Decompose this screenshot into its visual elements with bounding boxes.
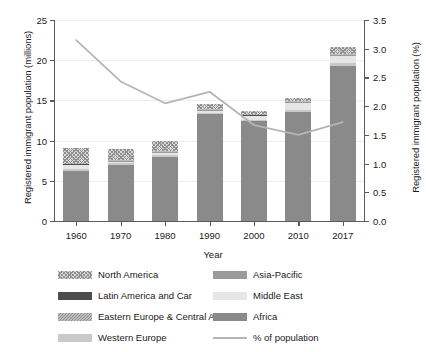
legend-item-africa[interactable]: Africa [213,311,388,322]
y-axis-right-tick-label: 3.0 [373,43,401,54]
y-axis-right-tick [365,221,369,222]
bar-segment-asia-pacific [285,102,311,103]
legend-label: Asia-Pacific [253,269,303,280]
x-axis-tick [210,222,211,226]
bar-segment-western-europe [152,155,178,157]
legend-label: % of population [253,332,319,343]
y-axis-right-tick [365,135,369,136]
bar-1980[interactable] [152,141,178,221]
legend-color-swatch [213,313,247,321]
bar-segment-asia-pacific [330,55,356,56]
legend-color-swatch [58,292,92,300]
y-axis-right-tick-label: 1.0 [373,158,401,169]
y-axis-right-tick [365,106,369,107]
legend-label: Latin America and Car [98,290,192,301]
y-axis-left-tick-label: 5 [25,175,47,186]
bar-segment-western-europe [63,169,89,171]
y-axis-left-tick [50,221,54,222]
bar-segment-north-america [152,141,178,151]
x-axis-tick-label: 2017 [323,230,363,241]
legend-color-swatch [58,271,92,279]
bar-segment-western-europe [241,120,267,122]
y-axis-left-tick-label: 0 [25,216,47,227]
y-axis-left-tick-label: 25 [25,15,47,26]
bar-2000[interactable] [241,111,267,221]
chart-legend: North AmericaAsia-PacificLatin America a… [58,264,388,348]
bar-1970[interactable] [108,149,134,221]
x-axis-tick-label: 1990 [190,230,230,241]
gridline [55,60,364,61]
plot-area: 0510152025 0.00.51.01.52.02.53.03.5 1960… [54,20,365,222]
y-axis-left-tick [50,181,54,182]
legend-item-western-europe[interactable]: Western Europe [58,332,213,343]
y-axis-right-tick-label: 1.5 [373,129,401,140]
gridline [55,20,364,21]
bar-segment-africa [285,112,311,221]
legend-label: Western Europe [98,332,166,343]
bar-segment-north-america [197,104,223,109]
bar-segment-north-america [241,111,267,115]
x-axis-tick [165,222,166,226]
bar-segment-asia-pacific [63,164,89,165]
bar-segment-asia-pacific [197,110,223,111]
x-axis-tick [121,222,122,226]
bar-segment-asia-pacific [241,115,267,116]
y-axis-left-line [54,20,55,222]
bar-segment-western-europe [285,110,311,112]
legend-label: Eastern Europe & Central Asia [98,311,227,322]
bar-segment-middle-east [197,111,223,113]
x-axis-tick [298,222,299,226]
y-axis-left-tick-label: 20 [25,55,47,66]
legend-label: North America [98,269,158,280]
legend-line-swatch [213,337,247,339]
legend-color-swatch [58,334,92,342]
bar-1960[interactable] [63,148,89,221]
legend-item-of-population[interactable]: % of population [213,332,388,343]
bar-2010[interactable] [285,98,311,221]
x-axis-tick-label: 1970 [101,230,141,241]
y-axis-left-title: Registered immigrant population (million… [22,13,33,223]
legend-label: Africa [253,311,277,322]
y-axis-left-tick-label: 10 [25,135,47,146]
y-axis-left-tick [50,60,54,61]
bar-segment-north-america [330,47,356,53]
bar-1990[interactable] [197,104,223,221]
bar-segment-africa [197,114,223,221]
bar-segment-middle-east [108,161,134,163]
bar-segment-north-america [108,149,134,159]
bar-2017[interactable] [330,47,356,221]
y-axis-left-tick [50,20,54,21]
bar-segment-middle-east [241,116,267,120]
y-axis-right-tick-label: 2.0 [373,101,401,112]
bar-segment-middle-east [285,102,311,109]
y-axis-right-tick [365,49,369,50]
y-axis-right-tick [365,192,369,193]
chart-container: Registered immigrant population (million… [0,0,426,352]
bar-segment-asia-pacific [152,152,178,153]
legend-color-swatch [213,271,247,279]
x-axis-tick [343,222,344,226]
legend-label: Middle East [253,290,303,301]
bar-segment-africa [63,171,89,221]
x-axis-tick [254,222,255,226]
y-axis-right-tick-label: 0.0 [373,216,401,227]
y-axis-right-tick [365,20,369,21]
bar-segment-asia-pacific [108,161,134,162]
legend-item-middle-east[interactable]: Middle East [213,290,388,301]
y-axis-right-title: Registered immigrant population (%) [410,13,421,223]
y-axis-right-tick [365,77,369,78]
legend-item-asia-pacific[interactable]: Asia-Pacific [213,269,388,280]
legend-item-north-america[interactable]: North America [58,269,213,280]
y-axis-right-tick-label: 2.5 [373,72,401,83]
bar-segment-western-europe [197,113,223,114]
x-axis-tick-label: 2010 [278,230,318,241]
x-axis-tick [76,222,77,226]
bar-segment-africa [241,121,267,221]
bar-segment-middle-east [152,153,178,155]
legend-item-eastern-europe-central-asia[interactable]: Eastern Europe & Central Asia [58,311,213,322]
bar-segment-north-america [63,148,89,163]
y-axis-right-tick-label: 3.5 [373,15,401,26]
bar-segment-africa [152,157,178,221]
x-axis-tick-label: 1960 [56,230,96,241]
legend-item-latin-america-and-car[interactable]: Latin America and Car [58,290,213,301]
